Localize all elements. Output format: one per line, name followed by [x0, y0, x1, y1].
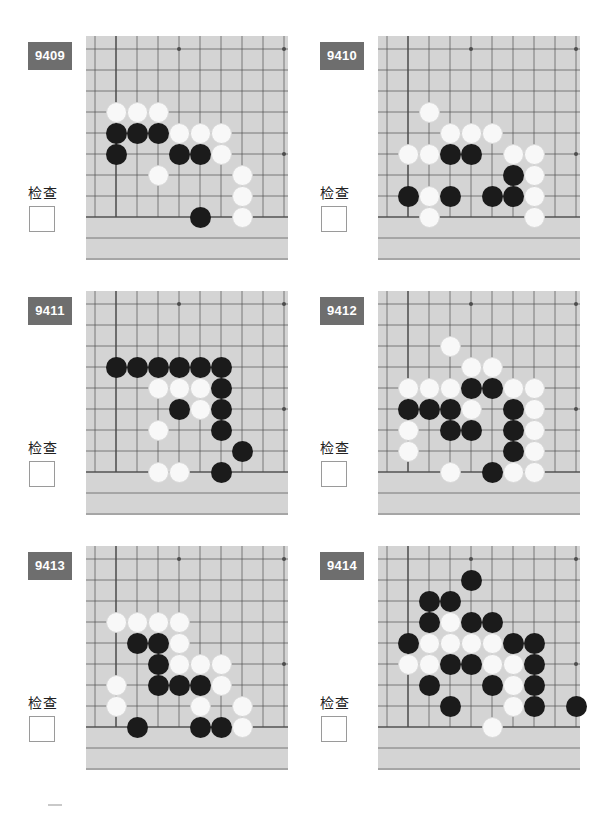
- check-label: 检查: [320, 692, 350, 712]
- check-label: 检查: [320, 182, 350, 202]
- white-stone: [398, 441, 419, 462]
- white-stone: [190, 654, 211, 675]
- puzzle-card: 9414检查: [312, 542, 580, 774]
- check-checkbox[interactable]: [321, 716, 347, 742]
- white-stone: [148, 420, 169, 441]
- black-stone: [148, 123, 169, 144]
- black-stone: [398, 633, 419, 654]
- go-board[interactable]: [378, 291, 580, 515]
- white-stone: [503, 696, 524, 717]
- check-checkbox[interactable]: [29, 206, 55, 232]
- black-stone: [524, 654, 545, 675]
- white-stone: [482, 654, 503, 675]
- black-stone: [211, 399, 232, 420]
- puzzle-number-badge: 9414: [320, 552, 364, 580]
- white-stone: [482, 633, 503, 654]
- white-stone: [419, 102, 440, 123]
- white-stone: [419, 144, 440, 165]
- black-stone: [440, 696, 461, 717]
- black-stone: [190, 207, 211, 228]
- black-stone: [440, 591, 461, 612]
- white-stone: [461, 357, 482, 378]
- white-stone: [211, 123, 232, 144]
- black-stone: [440, 654, 461, 675]
- black-stone: [524, 696, 545, 717]
- black-stone: [190, 675, 211, 696]
- white-stone: [232, 696, 253, 717]
- black-stone: [211, 717, 232, 738]
- check-checkbox[interactable]: [29, 716, 55, 742]
- white-stone: [440, 612, 461, 633]
- white-stone: [398, 144, 419, 165]
- white-stone: [419, 378, 440, 399]
- black-stone: [148, 675, 169, 696]
- white-stone: [232, 165, 253, 186]
- white-stone: [169, 123, 190, 144]
- black-stone: [461, 654, 482, 675]
- go-board[interactable]: [378, 36, 580, 260]
- white-stone: [524, 207, 545, 228]
- black-stone: [211, 420, 232, 441]
- black-stone: [503, 399, 524, 420]
- white-stone: [169, 633, 190, 654]
- black-stone: [440, 144, 461, 165]
- black-stone: [127, 633, 148, 654]
- go-board[interactable]: [86, 546, 288, 770]
- go-board[interactable]: [86, 36, 288, 260]
- black-stone: [106, 123, 127, 144]
- black-stone: [503, 633, 524, 654]
- black-stone: [461, 378, 482, 399]
- white-stone: [503, 654, 524, 675]
- black-stone: [482, 378, 503, 399]
- black-stone: [440, 399, 461, 420]
- black-stone: [419, 399, 440, 420]
- white-stone: [211, 144, 232, 165]
- white-stone: [503, 675, 524, 696]
- white-stone: [482, 717, 503, 738]
- white-stone: [503, 378, 524, 399]
- white-stone: [524, 420, 545, 441]
- white-stone: [232, 207, 253, 228]
- white-stone: [169, 654, 190, 675]
- check-label: 检查: [28, 182, 58, 202]
- white-stone: [169, 378, 190, 399]
- check-checkbox[interactable]: [29, 461, 55, 487]
- black-stone: [524, 633, 545, 654]
- black-stone: [419, 612, 440, 633]
- black-stone: [461, 420, 482, 441]
- puzzle-side-column: 9409检查: [20, 32, 82, 264]
- black-stone: [190, 717, 211, 738]
- puzzle-number-badge: 9410: [320, 42, 364, 70]
- white-stone: [524, 186, 545, 207]
- check-label: 检查: [28, 437, 58, 457]
- check-checkbox[interactable]: [321, 206, 347, 232]
- white-stone: [398, 420, 419, 441]
- go-board[interactable]: [86, 291, 288, 515]
- white-stone: [148, 612, 169, 633]
- white-stone: [524, 144, 545, 165]
- check-checkbox[interactable]: [321, 461, 347, 487]
- worksheet-sheet: 9409检查9410检查9411检查9412检查9413检查9414检查: [0, 0, 608, 813]
- black-stone: [398, 399, 419, 420]
- black-stone: [169, 357, 190, 378]
- black-stone: [503, 186, 524, 207]
- white-stone: [440, 633, 461, 654]
- white-stone: [211, 654, 232, 675]
- puzzle-card: 9410检查: [312, 32, 580, 264]
- puzzle-side-column: 9413检查: [20, 542, 82, 774]
- white-stone: [524, 378, 545, 399]
- white-stone: [524, 462, 545, 483]
- go-board[interactable]: [378, 546, 580, 770]
- white-stone: [461, 633, 482, 654]
- white-stone: [503, 462, 524, 483]
- black-stone: [419, 591, 440, 612]
- white-stone: [148, 462, 169, 483]
- white-stone: [190, 378, 211, 399]
- puzzle-side-column: 9411检查: [20, 287, 82, 519]
- puzzle-number-badge: 9409: [28, 42, 72, 70]
- black-stone: [190, 144, 211, 165]
- black-stone: [127, 717, 148, 738]
- black-stone: [169, 144, 190, 165]
- white-stone: [419, 186, 440, 207]
- black-stone: [127, 357, 148, 378]
